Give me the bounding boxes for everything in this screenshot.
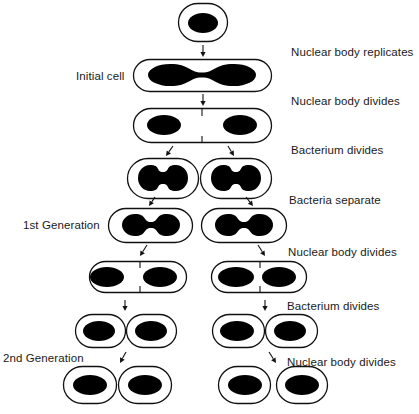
nucleus [143, 267, 177, 287]
nucleus [274, 321, 306, 341]
nucleus [128, 375, 162, 395]
nucleus [90, 267, 124, 287]
label-nuclear-body-divides-3: Nuclear body divides [287, 355, 396, 369]
arrow-icon [200, 94, 205, 106]
label-nuclear-body-divides-2: Nuclear body divides [288, 245, 397, 259]
nucleus [135, 321, 167, 341]
arrow-icon [269, 352, 276, 363]
nucleus [218, 267, 254, 287]
arrow-icon [120, 352, 126, 363]
nucleus [285, 375, 319, 395]
nucleus [188, 13, 218, 33]
arrow-icon [122, 300, 127, 311]
arrow-icon [258, 245, 265, 256]
arrow-icon [166, 146, 173, 156]
nucleus [223, 115, 257, 135]
nucleus [262, 267, 296, 287]
binary-fission-diagram: Nuclear body replicates Nuclear body div… [0, 0, 419, 414]
cell-walls [64, 4, 328, 404]
label-bacteria-separate: Bacteria separate [289, 193, 381, 207]
arrow-icon [262, 300, 267, 311]
arrow-icon [200, 45, 205, 57]
nucleus [147, 115, 181, 135]
nucleus [220, 321, 254, 341]
label-second-generation: 2nd Generation [3, 351, 84, 365]
nucleus [228, 375, 262, 395]
nucleus [83, 321, 115, 341]
label-nuclear-body-divides: Nuclear body divides [291, 94, 400, 108]
label-first-generation: 1st Generation [23, 218, 100, 232]
label-bacterium-divides: Bacterium divides [291, 143, 383, 157]
arrow-icon [228, 146, 234, 156]
label-initial-cell: Initial cell [76, 69, 125, 83]
label-nuclear-body-replicates: Nuclear body replicates [291, 45, 413, 59]
nucleus [73, 375, 107, 395]
label-bacterium-divides-2: Bacterium divides [287, 299, 379, 313]
arrow-icon [140, 245, 147, 256]
